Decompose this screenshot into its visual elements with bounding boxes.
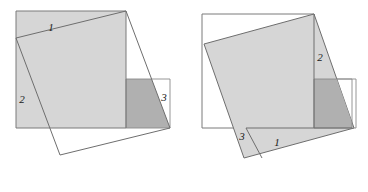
figure-container: 1 2 3 1 2 3 bbox=[0, 0, 368, 192]
dissection-diagram: 1 2 3 1 2 3 bbox=[0, 0, 368, 192]
left-region-label-1: 1 bbox=[48, 21, 54, 33]
right-region-label-1: 1 bbox=[274, 136, 280, 148]
right-panel: 1 2 3 bbox=[202, 14, 356, 158]
left-region-label-2: 2 bbox=[19, 93, 25, 105]
right-dark-group bbox=[314, 79, 352, 128]
right-dark-square bbox=[314, 79, 352, 128]
left-region-label-3: 3 bbox=[160, 91, 167, 103]
left-dark-square bbox=[126, 79, 170, 128]
left-light-region bbox=[16, 11, 126, 128]
left-dark-group bbox=[126, 79, 170, 128]
right-region-label-2: 2 bbox=[317, 51, 323, 63]
left-panel: 1 2 3 bbox=[16, 11, 170, 155]
right-region-label-3: 3 bbox=[238, 130, 245, 142]
